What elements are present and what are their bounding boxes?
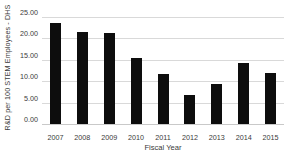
x-axis-tick-label: 2011 — [155, 133, 170, 142]
x-axis-tick-label: 2008 — [74, 133, 90, 142]
x-axis-tick-slot: 2011 — [150, 126, 177, 140]
bar-slot — [42, 17, 69, 124]
bar-slot — [69, 17, 96, 124]
x-axis-tick-slot: 2012 — [176, 126, 203, 140]
bar-slot — [150, 17, 177, 124]
x-axis-tick-label: 2009 — [101, 133, 117, 142]
y-axis-tick-label: 10.00 — [20, 72, 38, 81]
bar-slot — [203, 17, 230, 124]
y-axis-tick-label: 25.00 — [20, 8, 38, 17]
x-axis-tick-label: 2015 — [263, 133, 279, 142]
bar-slot — [257, 17, 284, 124]
x-axis-tick-label: 2007 — [47, 133, 63, 142]
x-axis-tick-slot: 2008 — [69, 126, 96, 140]
x-axis-tick-label: 2010 — [128, 133, 144, 142]
x-axis-tick-label: 2013 — [209, 133, 225, 142]
y-axis-title-text: R&D per 100 STEM Employees - DHS — [4, 4, 13, 130]
bar[interactable] — [131, 58, 142, 124]
bar-slot — [230, 17, 257, 124]
bar[interactable] — [158, 74, 169, 125]
y-axis-tick-label: 0.00 — [24, 115, 38, 124]
y-axis-tick-label: 20.00 — [20, 29, 38, 38]
x-axis-tick-slot: 2010 — [123, 126, 150, 140]
x-axis-tick-label: 2014 — [236, 133, 252, 142]
x-axis-tick-slot: 2015 — [257, 126, 284, 140]
x-axis-title: Fiscal Year — [42, 143, 284, 152]
bar-slot — [176, 17, 203, 124]
bars-container — [42, 17, 284, 124]
bar[interactable] — [265, 73, 276, 124]
x-axis-tick-label: 2012 — [182, 133, 198, 142]
y-axis-tick-labels: 0.005.0010.0015.0020.0025.00 — [16, 12, 40, 126]
y-axis-tick-label: 5.00 — [24, 93, 38, 102]
bar-slot — [96, 17, 123, 124]
x-axis-tick-slot: 2013 — [203, 126, 230, 140]
x-axis-tick-slot: 2014 — [230, 126, 257, 140]
y-axis-tick-label: 15.00 — [20, 50, 38, 59]
bar[interactable] — [77, 32, 88, 124]
x-axis-tick-slot: 2009 — [96, 126, 123, 140]
x-axis-tick-labels: 200720082009201020112012201320142015 — [42, 126, 284, 140]
bar[interactable] — [211, 84, 222, 124]
bar-slot — [123, 17, 150, 124]
bar[interactable] — [238, 63, 249, 124]
bar-chart: R&D per 100 STEM Employees - DHS 0.005.0… — [0, 0, 287, 166]
plot-area — [42, 17, 284, 124]
x-axis-tick-slot: 2007 — [42, 126, 69, 140]
bar[interactable] — [104, 33, 115, 124]
y-axis-title: R&D per 100 STEM Employees - DHS — [0, 0, 16, 134]
gridline — [42, 124, 284, 125]
bar[interactable] — [184, 95, 195, 124]
bar[interactable] — [50, 23, 61, 124]
